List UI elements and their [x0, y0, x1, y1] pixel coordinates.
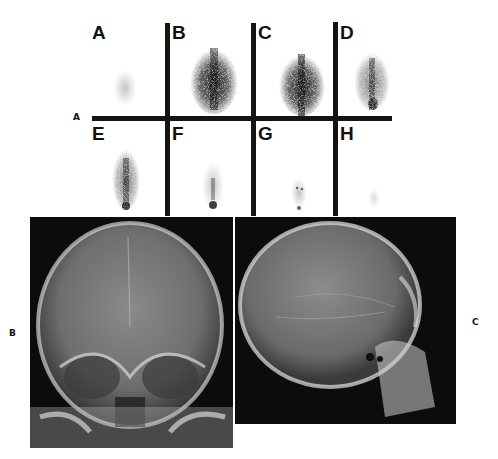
figure-label-a: A	[73, 112, 80, 122]
xray-frontal-image	[30, 217, 233, 448]
scan-image-a	[92, 18, 392, 216]
scan-grid: A B C D E F G H	[92, 18, 392, 216]
figure-label-c: C	[472, 317, 479, 327]
figure-label-b: B	[9, 328, 16, 338]
xray-lateral-image	[235, 217, 456, 424]
